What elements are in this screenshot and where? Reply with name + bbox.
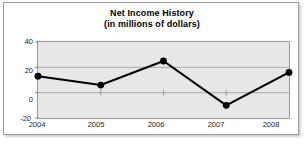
line-chart-svg	[4, 3, 300, 136]
data-point-markers	[35, 58, 293, 109]
data-point-marker	[97, 82, 104, 89]
data-point-marker	[160, 58, 167, 65]
data-point-marker	[223, 102, 230, 109]
chart-card: Net Income History (in millions of dolla…	[3, 2, 299, 135]
data-point-marker	[286, 69, 293, 76]
data-point-marker	[35, 73, 42, 80]
plot-wrapper: 40 20 0 -20 2004 2005 2006 2007 2008	[4, 3, 300, 136]
gridlines	[38, 67, 289, 92]
